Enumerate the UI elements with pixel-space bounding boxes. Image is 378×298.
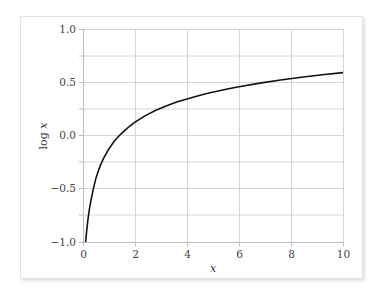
x-tick-4: 4 [184,248,191,260]
x-tick-10: 10 [337,248,350,260]
y-tick-neg0.5: −0.5 [51,182,77,194]
x-tick-8: 8 [288,248,295,260]
labels-layer: 1.0 0.5 0.0 −0.5 −1.0 0 2 4 6 8 10 x log… [0,0,378,298]
y-tick-neg1: −1.0 [51,236,77,248]
x-tick-2: 2 [132,248,139,260]
x-tick-0: 0 [80,248,87,260]
y-axis-label-func: log [37,129,50,150]
y-tick-1: 1.0 [59,23,76,35]
y-tick-labels: 1.0 0.5 0.0 −0.5 −1.0 [51,23,77,248]
x-tick-labels: 0 2 4 6 8 10 [80,248,350,260]
x-axis-label: x [210,262,217,275]
y-axis-label: log x [37,122,50,150]
x-tick-6: 6 [236,248,243,260]
y-tick-0.5: 0.5 [59,76,76,88]
y-tick-0: 0.0 [59,129,76,141]
y-axis-label-var: x [37,122,50,129]
